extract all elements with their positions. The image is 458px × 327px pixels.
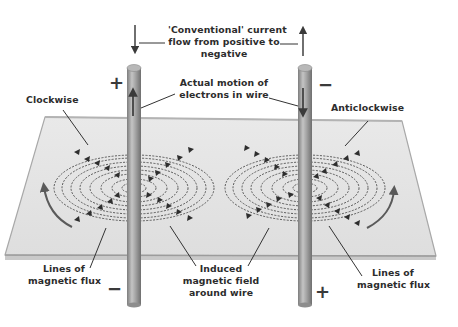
electron-label-line2: electrons in wire [176,89,272,101]
right-wire [298,65,312,308]
flux-left-label: Lines of magnetic flux [28,263,100,287]
right-top-minus-sign: − [318,76,333,94]
left-top-plus-sign: + [109,74,124,92]
conventional-label-line2: flow from positive to [168,36,280,48]
left-bottom-minus-sign: − [107,280,122,298]
conventional-label-line3: negative [168,48,280,60]
flux-left-line2: magnetic flux [28,275,100,287]
induced-line2: magnetic field [180,275,262,287]
induced-field-label: Induced magnetic field around wire [180,263,262,299]
right-bottom-plus-sign: + [315,283,330,301]
board-plane [5,117,436,260]
left-wire [127,65,141,308]
electron-motion-label: Actual motion of electrons in wire [176,77,272,101]
conventional-current-label: 'Conventional' current flow from positiv… [168,24,280,60]
electron-label-line1: Actual motion of [176,77,272,89]
induced-line1: Induced [180,263,262,275]
flux-right-line1: Lines of [357,267,429,279]
anticlockwise-label: Anticlockwise [331,102,404,114]
flux-left-line1: Lines of [28,263,100,275]
diagram-canvas: 'Conventional' current flow from positiv… [0,0,458,327]
flux-right-line2: magnetic flux [357,279,429,291]
conventional-label-line1: 'Conventional' current [168,24,280,36]
induced-line3: around wire [180,287,262,299]
flux-right-label: Lines of magnetic flux [357,267,429,291]
clockwise-label: Clockwise [26,94,79,106]
